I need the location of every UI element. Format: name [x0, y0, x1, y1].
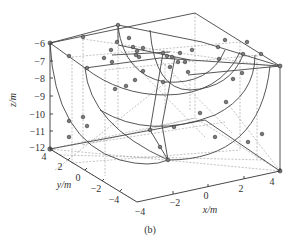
z-tick-label: −7	[34, 56, 45, 67]
y-tick-labels: 4 2 0 −2 −4	[42, 151, 120, 205]
y-tick-label: 2	[58, 161, 63, 172]
3d-plot: −6 −7 −8 −9 −10 −11 −12 4 2 0 −2 −4 −4 −…	[0, 0, 293, 244]
z-tick-label: −11	[30, 126, 45, 137]
y-axis-line	[50, 149, 137, 202]
z-tick-label: −6	[34, 38, 45, 49]
z-tick-labels: −6 −7 −8 −9 −10 −11 −12	[29, 38, 45, 153]
z-axis-label: z/m	[7, 93, 18, 108]
x-tick-label: 0	[204, 190, 209, 201]
z-tick-label: −9	[34, 91, 45, 102]
y-tick-label: 4	[42, 151, 47, 162]
x-tick-label: 2	[239, 183, 244, 194]
y-tick-label: −2	[91, 183, 102, 194]
y-tick-label: −4	[109, 194, 120, 205]
z-tick-label: −8	[34, 73, 45, 84]
x-tick-label: −4	[135, 206, 146, 217]
y-axis-label: y/m	[56, 179, 71, 190]
axes	[50, 43, 280, 202]
z-tick-label: −10	[29, 109, 45, 120]
figure-caption: (b)	[144, 224, 156, 236]
x-tick-label: −2	[170, 197, 181, 208]
x-axis-label: x/m	[202, 204, 217, 215]
x-axis-line	[137, 171, 280, 202]
y-tick-label: 0	[76, 172, 81, 183]
x-tick-label: 4	[270, 176, 275, 187]
